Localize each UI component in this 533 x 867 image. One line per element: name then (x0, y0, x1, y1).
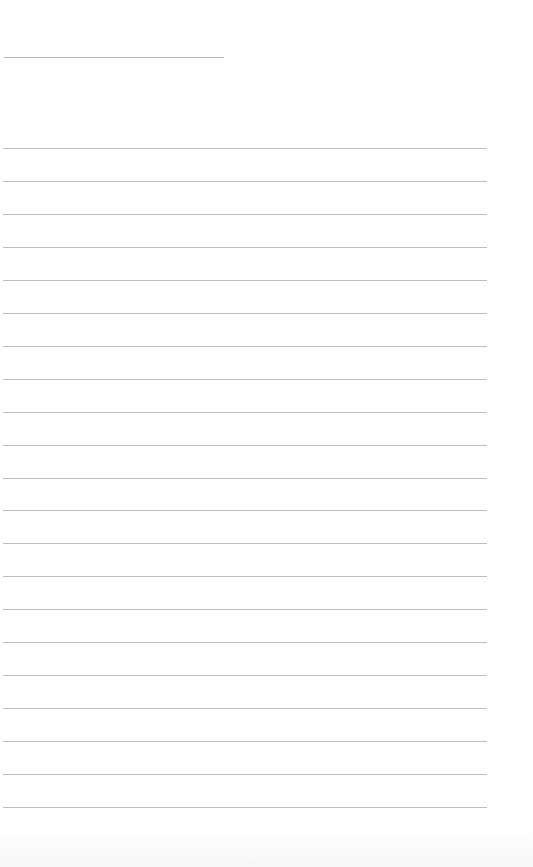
ruled-line (3, 675, 487, 676)
ruled-line (3, 280, 487, 281)
ruled-line (3, 576, 487, 577)
page-bottom-shade (0, 827, 533, 867)
ruled-line (3, 510, 487, 511)
ruled-line (3, 247, 487, 248)
ruled-line (3, 313, 487, 314)
ruled-line (3, 445, 487, 446)
ruled-line (3, 807, 487, 808)
lined-paper-page (0, 0, 533, 867)
header-name-line (4, 57, 224, 58)
ruled-line (3, 741, 487, 742)
ruled-line (3, 708, 487, 709)
ruled-line (3, 379, 487, 380)
ruled-line (3, 609, 487, 610)
ruled-line (3, 774, 487, 775)
ruled-line (3, 346, 487, 347)
ruled-line (3, 181, 487, 182)
ruled-line (3, 642, 487, 643)
ruled-line (3, 543, 487, 544)
ruled-line (3, 412, 487, 413)
ruled-line (3, 478, 487, 479)
ruled-line (3, 148, 487, 149)
ruled-line (3, 214, 487, 215)
